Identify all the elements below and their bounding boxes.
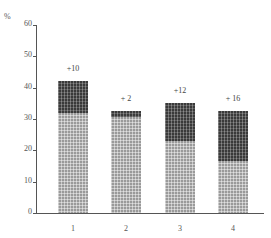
y-tick-mark — [33, 56, 37, 57]
y-tick-mark — [33, 182, 37, 183]
y-tick-label: 0 — [18, 208, 32, 216]
x-tick-label: 4 — [223, 224, 243, 233]
bar-increment-segment — [218, 111, 248, 161]
bar-1 — [58, 81, 88, 213]
x-axis-line — [36, 213, 264, 214]
bar-4 — [218, 111, 248, 213]
y-tick-mark — [33, 213, 37, 214]
bar-increment-segment — [58, 81, 88, 112]
y-tick-label: 10 — [18, 177, 32, 185]
bar-base-segment — [111, 117, 141, 213]
bar-increment-segment — [111, 111, 141, 117]
bar-annotation: + 16 — [213, 94, 253, 103]
y-axis-unit-label: % — [4, 12, 11, 21]
bar-base-segment — [58, 113, 88, 213]
bar-increment-segment — [165, 103, 195, 141]
y-tick-mark — [33, 150, 37, 151]
y-tick-mark — [33, 88, 37, 89]
bar-annotation: +12 — [160, 86, 200, 95]
y-tick-label: 40 — [18, 83, 32, 91]
y-tick-mark — [33, 119, 37, 120]
y-tick-label: 50 — [18, 51, 32, 59]
bar-annotation: +10 — [53, 64, 93, 73]
bar-base-segment — [165, 141, 195, 213]
x-tick-label: 1 — [63, 224, 83, 233]
y-tick-label: 30 — [18, 114, 32, 122]
y-tick-label: 20 — [18, 145, 32, 153]
x-tick-label: 3 — [170, 224, 190, 233]
y-tick-mark — [33, 25, 37, 26]
bar-base-segment — [218, 161, 248, 213]
stacked-bar-chart: % 0102030405060 +10+ 2+12+ 16 1234 — [0, 0, 271, 238]
bar-3 — [165, 103, 195, 213]
bar-annotation: + 2 — [106, 94, 146, 103]
y-tick-label: 60 — [18, 20, 32, 28]
bar-2 — [111, 111, 141, 213]
x-tick-label: 2 — [116, 224, 136, 233]
